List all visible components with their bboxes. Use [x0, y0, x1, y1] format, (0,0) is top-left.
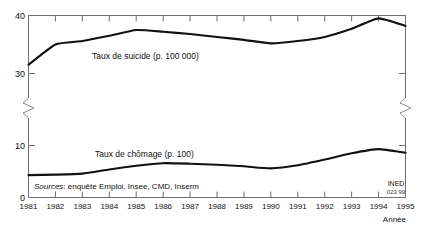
x-tick-label-1994: 1994 [370, 202, 388, 211]
x-tick-label-1993: 1993 [343, 202, 361, 211]
source-prefix: Sources [34, 182, 63, 191]
y-tick-label-10: 10 [15, 141, 25, 151]
x-tick-label-1984: 1984 [100, 202, 118, 211]
x-tick-label-1986: 1986 [154, 202, 172, 211]
y-tick-label-40: 40 [15, 11, 25, 21]
ined-code: 023 99 [387, 189, 406, 195]
x-tick-label-1992: 1992 [316, 202, 334, 211]
series-line-chomage [29, 149, 406, 175]
ined-mark: INED [388, 180, 405, 187]
x-tick-label-1982: 1982 [47, 202, 65, 211]
x-tick-labels: 1981198219831984198519861987198819891990… [20, 202, 415, 211]
x-tick-label-1981: 1981 [20, 202, 38, 211]
axis-frame [29, 15, 406, 198]
series-label-suicide: Taux de suicide (p. 100 000) [92, 51, 199, 61]
source-note: Sources: enquête Emploi, Insee, CMD, Ins… [34, 182, 199, 191]
axis-break-marks [23, 98, 411, 118]
x-tick-label-1985: 1985 [127, 202, 145, 211]
y-tick-label-30: 30 [15, 69, 25, 79]
chart-container: 40 30 10 0 19811982198319841985198619871… [0, 0, 426, 230]
x-tick-label-1989: 1989 [235, 202, 253, 211]
source-text: : enquête Emploi, Insee, CMD, Inserm [63, 182, 199, 191]
axis-break-right-icon [400, 98, 411, 118]
x-tick-label-1990: 1990 [262, 202, 280, 211]
x-axis-label: Année [383, 215, 407, 224]
series-line-suicide [29, 18, 406, 64]
x-tick-label-1988: 1988 [208, 202, 226, 211]
line-chart: 40 30 10 0 19811982198319841985198619871… [0, 0, 426, 230]
series-label-chomage: Taux de chômage (p. 100) [95, 149, 194, 159]
y-tick-label-0: 0 [20, 193, 25, 203]
x-tick-label-1995: 1995 [397, 202, 415, 211]
y-ticks [29, 16, 406, 198]
x-tick-label-1991: 1991 [289, 202, 307, 211]
axis-break-left-icon [23, 98, 34, 118]
x-tick-label-1983: 1983 [73, 202, 91, 211]
x-tick-label-1987: 1987 [181, 202, 199, 211]
